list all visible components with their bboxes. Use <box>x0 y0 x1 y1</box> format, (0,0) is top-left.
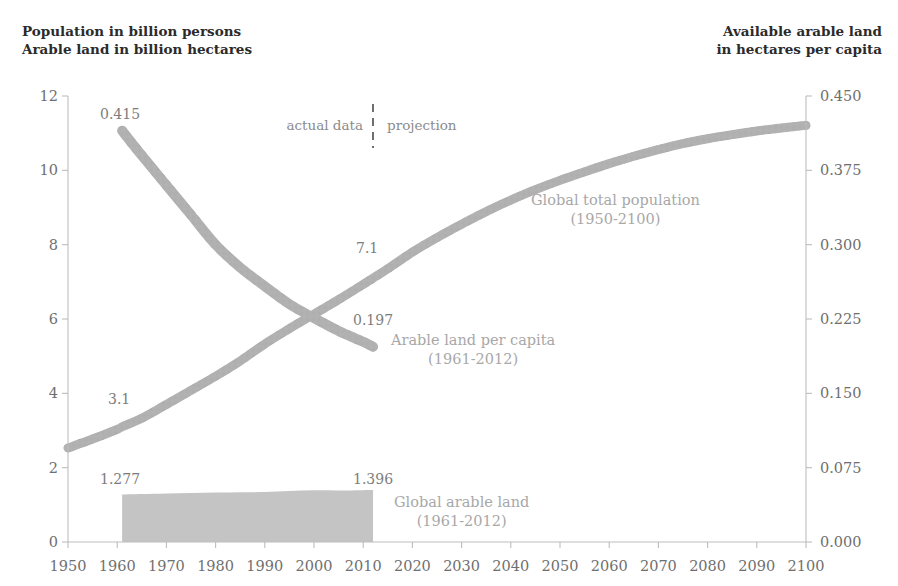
x-axis-tick-2050: 2050 <box>542 558 579 574</box>
x-axis-tick-2060: 2060 <box>591 558 628 574</box>
projection-label: projection <box>387 117 457 133</box>
left-axis-tick-0: 0 <box>8 534 58 550</box>
value-label-population-1961: 3.1 <box>108 391 130 407</box>
actual-data-label: actual data <box>286 117 363 133</box>
value-label-arable-end: 1.396 <box>353 471 393 487</box>
x-axis-tick-2010: 2010 <box>345 558 382 574</box>
chart-container: Population in billion persons Arable lan… <box>0 0 898 586</box>
right-axis-tick-0.300: 0.300 <box>820 237 862 253</box>
right-axis-tick-0.000: 0.000 <box>820 534 862 550</box>
x-axis-tick-2100: 2100 <box>788 558 825 574</box>
label-arable-land-per-capita: Arable land per capita (1961-2012) <box>391 331 555 369</box>
left-axis-tick-12: 12 <box>8 88 58 104</box>
x-axis-tick-2080: 2080 <box>689 558 726 574</box>
label-global-total-population: Global total population (1950-2100) <box>531 191 700 229</box>
right-axis-tick-0.375: 0.375 <box>820 162 862 178</box>
label-arable-line1: Global arable land <box>394 493 529 512</box>
label-global-arable-land: Global arable land (1961-2012) <box>394 493 529 531</box>
x-axis-tick-2020: 2020 <box>394 558 431 574</box>
x-axis-tick-2000: 2000 <box>296 558 333 574</box>
left-axis-tick-2: 2 <box>8 460 58 476</box>
x-axis-tick-1960: 1960 <box>99 558 136 574</box>
label-arable-line2: (1961-2012) <box>394 512 529 531</box>
value-label-population-2012: 7.1 <box>356 240 378 256</box>
right-axis-tick-0.225: 0.225 <box>820 311 862 327</box>
x-axis-tick-2030: 2030 <box>443 558 480 574</box>
x-axis-tick-1970: 1970 <box>148 558 185 574</box>
left-axis-tick-10: 10 <box>8 162 58 178</box>
value-label-per-capita-start: 0.415 <box>100 106 140 122</box>
series-global-total-population <box>68 125 806 448</box>
label-population-line1: Global total population <box>531 191 700 210</box>
right-axis-tick-0.075: 0.075 <box>820 460 862 476</box>
left-axis-tick-8: 8 <box>8 237 58 253</box>
right-axis-tick-0.450: 0.450 <box>820 88 862 104</box>
x-axis-tick-1950: 1950 <box>50 558 87 574</box>
x-axis-tick-2090: 2090 <box>738 558 775 574</box>
value-label-per-capita-end: 0.197 <box>353 312 393 328</box>
series-global-arable-land <box>122 490 373 542</box>
left-axis-tick-4: 4 <box>8 385 58 401</box>
left-axis-tick-6: 6 <box>8 311 58 327</box>
label-population-line2: (1950-2100) <box>531 210 700 229</box>
label-per-capita-line2: (1961-2012) <box>391 350 555 369</box>
series-arable-land-per-capita <box>122 131 373 347</box>
x-axis-tick-2070: 2070 <box>640 558 677 574</box>
x-axis-tick-2040: 2040 <box>492 558 529 574</box>
x-axis-tick-1990: 1990 <box>246 558 283 574</box>
value-label-arable-start: 1.277 <box>100 471 140 487</box>
right-axis-tick-0.150: 0.150 <box>820 385 862 401</box>
actual-projection-divider <box>372 104 374 148</box>
x-axis-tick-1980: 1980 <box>197 558 234 574</box>
label-per-capita-line1: Arable land per capita <box>391 331 555 350</box>
chart-axes <box>62 96 812 548</box>
